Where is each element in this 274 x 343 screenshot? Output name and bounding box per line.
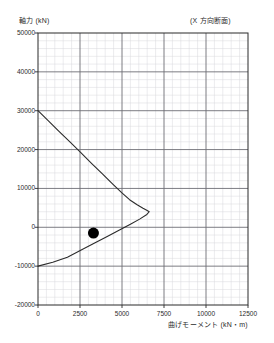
major-gridlines — [38, 33, 248, 305]
x-axis-tick-label: 5000 — [102, 310, 142, 317]
minor-gridlines — [38, 33, 248, 305]
x-axis-tick-label: 0 — [18, 310, 58, 317]
x-axis-tick-label: 10000 — [186, 310, 226, 317]
plot-frame — [38, 33, 248, 305]
x-axis-tick-label: 7500 — [144, 310, 184, 317]
y-axis-tick-label: 20000 — [3, 146, 35, 153]
y-axis-tick-label: 50000 — [3, 29, 35, 36]
x-axis-tick-label: 12500 — [228, 310, 268, 317]
design-point-marker — [88, 228, 99, 239]
y-axis-tick-label: 40000 — [3, 68, 35, 75]
y-axis-tick-label: 30000 — [3, 107, 35, 114]
axis-tick-marks — [35, 33, 248, 308]
y-axis-tick-label: -10000 — [3, 262, 35, 269]
plot-canvas — [0, 0, 274, 343]
interaction-diagram-chart: 軸力 (kN) (X 方向断面) 曲げモーメント (kN・m) 50000400… — [0, 0, 274, 343]
y-axis-tick-label: 0 — [3, 223, 35, 230]
y-axis-tick-label: -20000 — [3, 301, 35, 308]
y-axis-tick-label: 10000 — [3, 184, 35, 191]
x-axis-tick-label: 2500 — [60, 310, 100, 317]
